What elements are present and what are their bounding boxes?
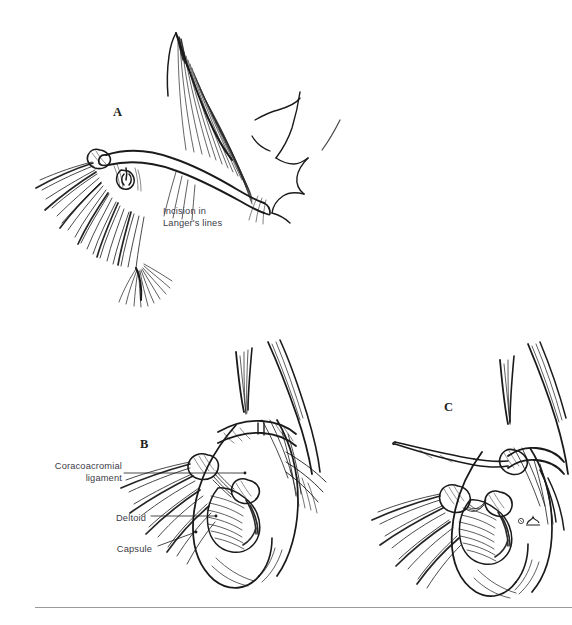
panel-letter-b: B [140,437,149,452]
annotation-capsule: Capsule [0,544,152,556]
leader-line-capsule [158,532,196,546]
annotation-incision-langers-lines: Incision in Langer's lines [163,206,222,229]
panel-a-artwork [36,33,340,307]
anatomical-line-art [0,0,572,625]
panel-c-artwork [286,342,568,598]
panel-letter-c: C [444,400,453,415]
panel-letter-a: A [113,105,122,120]
artist-signature-mark [518,517,540,525]
annotation-coracoacromial-ligament: Coracoacromial ligament [0,461,122,484]
figure-caption-cropped [60,618,530,625]
annotation-deltoid: Deltoid [0,513,146,525]
figure-page: A B C Incision in Langer's lines Coracoa… [0,0,572,625]
footer-divider [35,607,572,608]
